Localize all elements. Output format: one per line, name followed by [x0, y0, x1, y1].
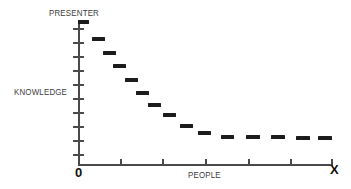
y-tick-5 [73, 98, 84, 100]
data-point-10 [221, 135, 234, 139]
y-tick-1 [73, 42, 84, 44]
x-tick-2 [205, 159, 207, 165]
data-point-2 [103, 51, 116, 55]
y-tick-9 [73, 154, 84, 156]
data-point-1 [92, 37, 105, 41]
data-point-4 [125, 78, 138, 82]
y-tick-3 [73, 70, 84, 72]
x-tick-3 [248, 159, 250, 165]
y-tick-0 [73, 28, 84, 30]
data-point-14 [318, 136, 332, 140]
y-tick-8 [73, 140, 84, 142]
y-axis-top-label: PRESENTER [49, 8, 99, 18]
data-point-12 [271, 135, 285, 139]
data-point-5 [136, 91, 149, 95]
y-axis-title: KNOWLEDGE [14, 87, 67, 97]
x-axis-end-label: X [330, 162, 339, 177]
data-point-7 [163, 113, 176, 117]
x-axis-title: PEOPLE [188, 170, 221, 180]
data-point-3 [113, 64, 126, 68]
y-tick-4 [73, 84, 84, 86]
data-point-9 [198, 131, 211, 135]
data-point-6 [148, 103, 161, 107]
knowledge-decay-chart: PRESENTER KNOWLEDGE PEOPLE 0 X [0, 0, 351, 189]
x-tick-4 [290, 159, 292, 165]
y-tick-7 [73, 126, 84, 128]
data-point-11 [246, 135, 260, 139]
y-tick-2 [73, 56, 84, 58]
x-tick-1 [162, 159, 164, 165]
x-tick-0 [120, 159, 122, 165]
y-tick-6 [73, 112, 84, 114]
origin-label: 0 [75, 165, 82, 180]
data-point-13 [296, 136, 310, 140]
data-point-8 [180, 124, 193, 128]
data-point-0 [78, 20, 89, 24]
